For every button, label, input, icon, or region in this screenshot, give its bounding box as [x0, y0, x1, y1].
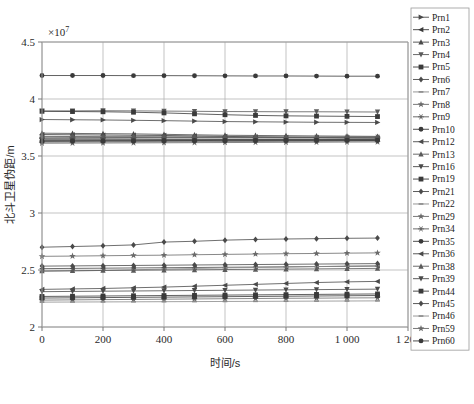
y-tick-label: 3.5 [21, 150, 35, 162]
series-prn1 [40, 117, 381, 125]
legend-item-label: Prn60 [432, 336, 455, 346]
marker-diamond [162, 239, 167, 245]
y-tick-label: 3 [30, 207, 36, 219]
y-tick-label: 2 [30, 321, 36, 333]
marker-diamond [345, 235, 350, 241]
legend-item-label: Prn46 [432, 311, 455, 321]
y-tick-label: 4.5 [21, 36, 35, 48]
legend-item-label: Prn3 [432, 38, 450, 48]
legend-item-label: Prn22 [432, 199, 455, 209]
legend-item-label: Prn8 [432, 100, 450, 110]
legend-item-label: Prn21 [432, 187, 455, 197]
legend-item-label: Prn4 [432, 50, 450, 60]
series-prn13 [39, 134, 380, 140]
marker-circle [101, 73, 106, 78]
series-polyline [42, 238, 378, 247]
y-tick-label: 2.5 [21, 264, 35, 276]
marker-circle [284, 74, 289, 79]
marker-circle [101, 139, 106, 144]
legend-item-label: Prn34 [432, 224, 455, 234]
legend: Prn1Prn2Prn3Prn4Prn5Prn6Prn7Prn8Prn9Prn1… [411, 8, 469, 350]
marker-square [101, 109, 106, 114]
series-prn21 [40, 235, 380, 250]
marker-diamond [223, 237, 228, 243]
series-prn39 [39, 287, 380, 295]
series-polyline [42, 298, 378, 300]
marker-square [345, 293, 350, 298]
marker-circle [253, 138, 258, 143]
marker-square [253, 113, 258, 118]
marker-circle [375, 74, 380, 79]
marker-diamond [192, 238, 197, 244]
marker-square [284, 113, 289, 118]
legend-item-label: Prn36 [432, 249, 455, 259]
legend-item-label: Prn44 [432, 287, 455, 297]
x-tick-label: 1 000 [335, 333, 360, 345]
series-polyline [42, 301, 378, 302]
legend-item-label: Prn6 [432, 75, 450, 85]
x-tick-label: 0 [39, 333, 45, 345]
legend-item-label: Prn7 [432, 87, 450, 97]
legend-item-label: Prn10 [432, 125, 455, 135]
x-tick-label: 400 [156, 333, 173, 345]
marker-star [130, 252, 137, 258]
marker-square [253, 294, 258, 299]
legend-item-label: Prn9 [432, 112, 450, 122]
marker-star [69, 253, 76, 259]
marker-square [101, 295, 106, 300]
series-prn46 [40, 301, 380, 302]
marker-circle [70, 139, 75, 144]
marker-circle [192, 139, 197, 144]
legend-item-label: Prn38 [432, 262, 455, 272]
marker-square [70, 295, 75, 300]
marker-circle [284, 138, 289, 143]
marker-circle [253, 74, 258, 79]
marker-square [162, 295, 167, 300]
series-prn10 [40, 73, 380, 78]
chart-figure: 22.533.544.502004006008001 0001 200×107时… [0, 0, 474, 404]
marker-triangle-left [375, 279, 380, 284]
pseudorange-line-chart: 22.533.544.502004006008001 0001 200×107时… [0, 0, 474, 404]
marker-square [419, 289, 424, 294]
marker-circle [192, 73, 197, 78]
marker-diamond [101, 243, 106, 249]
marker-circle [345, 74, 350, 79]
marker-square [223, 112, 228, 117]
marker-square [70, 109, 75, 114]
y-axis-title: 北斗卫星伪距/m [4, 145, 16, 223]
series-prn8 [39, 249, 381, 259]
marker-circle [419, 339, 424, 344]
legend-item-label: Prn1 [432, 13, 450, 23]
series-layer [39, 73, 381, 303]
marker-triangle-right [192, 118, 197, 123]
marker-diamond [253, 236, 258, 242]
marker-square [284, 294, 289, 299]
marker-triangle-right [131, 118, 136, 123]
marker-diamond [131, 242, 136, 248]
marker-circle [162, 73, 167, 78]
series-polyline [42, 253, 378, 256]
legend-item-label: Prn45 [432, 299, 455, 309]
marker-circle [419, 239, 424, 244]
series-polyline [42, 120, 378, 123]
marker-triangle-right [375, 120, 380, 125]
marker-square [162, 111, 167, 116]
marker-diamond [375, 235, 380, 241]
marker-triangle-left [314, 280, 319, 285]
series-polyline [42, 281, 378, 289]
marker-circle [375, 138, 380, 143]
marker-circle [223, 73, 228, 78]
y-axis-multiplier-label: ×107 [48, 25, 69, 38]
marker-square [314, 294, 319, 299]
marker-triangle-right [314, 120, 319, 125]
marker-circle [314, 138, 319, 143]
marker-circle [162, 139, 167, 144]
marker-diamond [284, 236, 289, 242]
marker-circle [131, 139, 136, 144]
legend-item-label: Prn2 [432, 25, 450, 35]
x-tick-label: 800 [278, 333, 295, 345]
marker-square [314, 114, 319, 119]
legend-item-label: Prn59 [432, 324, 455, 334]
legend-item-label: Prn19 [432, 174, 455, 184]
legend-item-label: Prn35 [432, 237, 455, 247]
